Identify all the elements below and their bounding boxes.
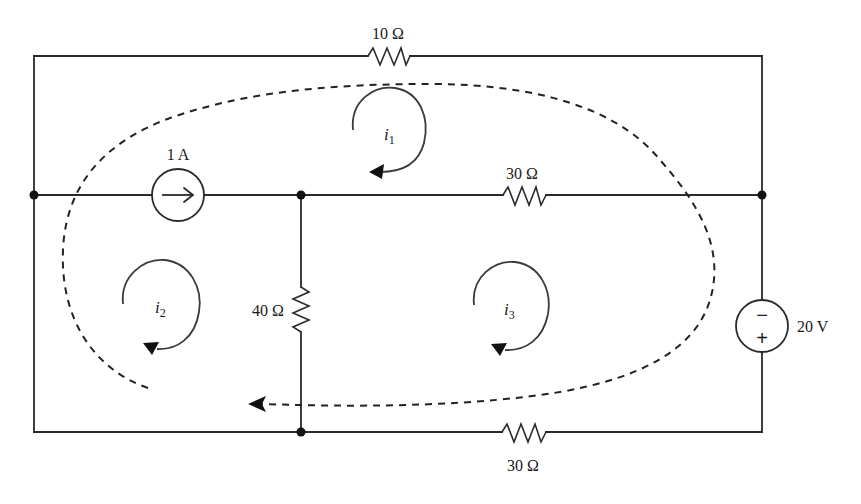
arrowhead-icon bbox=[491, 343, 507, 356]
wires bbox=[34, 56, 762, 432]
node-left bbox=[30, 191, 39, 200]
resistor-30-ohm-middle: 30 Ω bbox=[503, 165, 546, 205]
mesh-current-i1: i1 bbox=[353, 88, 426, 179]
current-subscript: 1 bbox=[389, 133, 395, 147]
resistor-zigzag-icon bbox=[503, 187, 546, 205]
mesh-current-i2-label: i2 bbox=[155, 298, 166, 320]
clockwise-arc-icon bbox=[123, 260, 200, 349]
mesh-current-i3-label: i3 bbox=[504, 300, 515, 322]
resistor-zigzag-icon bbox=[293, 287, 309, 332]
current-source: 1 A bbox=[152, 146, 204, 221]
nodes bbox=[30, 191, 767, 437]
resistor-zigzag-icon bbox=[502, 424, 546, 442]
mesh-current-i2: i2 bbox=[123, 260, 200, 355]
resistor-10-ohm-label: 10 Ω bbox=[372, 25, 404, 42]
circuit-diagram: 10 Ω 30 Ω 40 Ω 30 Ω 1 A − + 20 V bbox=[0, 0, 861, 504]
current-source-label: 1 A bbox=[167, 146, 190, 163]
voltage-source: − + 20 V bbox=[736, 300, 829, 352]
resistor-30-ohm-bottom: 30 Ω bbox=[502, 424, 546, 474]
minus-sign-icon: − bbox=[756, 304, 768, 326]
voltage-source-label: 20 V bbox=[797, 318, 829, 335]
clockwise-arc-icon bbox=[474, 262, 549, 350]
resistor-30-ohm-middle-label: 30 Ω bbox=[506, 165, 538, 182]
arrowhead-icon bbox=[369, 164, 384, 179]
node-center-bottom bbox=[297, 428, 306, 437]
mesh-current-i3: i3 bbox=[474, 262, 549, 356]
resistor-30-ohm-bottom-label: 30 Ω bbox=[507, 457, 539, 474]
resistor-40-ohm-label: 40 Ω bbox=[252, 302, 284, 319]
resistor-10-ohm: 10 Ω bbox=[368, 25, 410, 65]
plus-sign-icon: + bbox=[756, 327, 768, 349]
mesh-current-i1-label: i1 bbox=[384, 125, 395, 147]
arrowhead-icon bbox=[143, 342, 159, 355]
node-right bbox=[758, 191, 767, 200]
arrow-left-icon bbox=[248, 396, 266, 412]
current-subscript: 3 bbox=[509, 308, 515, 322]
resistor-40-ohm: 40 Ω bbox=[252, 287, 309, 332]
resistor-zigzag-icon bbox=[368, 48, 410, 65]
node-center-top bbox=[297, 191, 306, 200]
current-subscript: 2 bbox=[160, 306, 166, 320]
clockwise-arc-icon bbox=[353, 88, 426, 172]
